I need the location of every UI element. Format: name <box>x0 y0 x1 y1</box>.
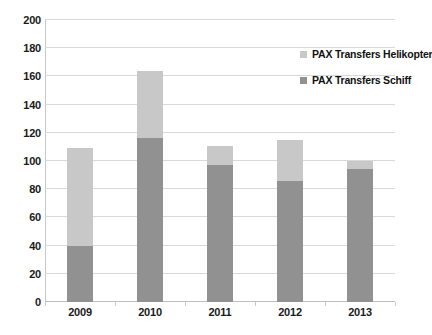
x-tick-label-2013: 2013 <box>330 306 390 318</box>
bar-segment[interactable] <box>137 71 163 139</box>
legend-item[interactable]: PAX Transfers Schiff <box>300 74 432 86</box>
x-axis-tick-labels: 20092010201120122013 <box>45 306 395 330</box>
plot-area: PAX Transfers HelikopterPAX Transfers Sc… <box>45 20 395 302</box>
legend-swatch-icon <box>300 77 307 84</box>
legend: PAX Transfers HelikopterPAX Transfers Sc… <box>300 48 432 100</box>
bar-segment[interactable] <box>67 246 93 302</box>
y-tick-label: 140 <box>5 99 41 111</box>
gridline <box>45 104 395 105</box>
x-tick-label-2010: 2010 <box>120 306 180 318</box>
y-tick-label: 160 <box>5 70 41 82</box>
x-tick-mark <box>45 302 46 306</box>
x-tick-mark <box>185 302 186 306</box>
legend-item[interactable]: PAX Transfers Helikopter <box>300 48 432 60</box>
bar-stack <box>207 146 233 303</box>
y-tick-label: 180 <box>5 42 41 54</box>
y-tick-label: 20 <box>5 268 41 280</box>
y-axis-tick-labels: 020406080100120140160180200 <box>0 20 41 302</box>
bar-segment[interactable] <box>207 146 233 166</box>
x-tick-mark <box>325 302 326 306</box>
x-tick-label-2009: 2009 <box>50 306 110 318</box>
y-tick-label: 120 <box>5 127 41 139</box>
bar-stack <box>137 71 163 302</box>
gridline <box>45 19 395 20</box>
x-tick-mark <box>115 302 116 306</box>
bar-segment[interactable] <box>67 148 93 245</box>
y-tick-label: 200 <box>5 14 41 26</box>
y-tick-label: 60 <box>5 211 41 223</box>
bar-segment[interactable] <box>277 181 303 302</box>
bar-segment[interactable] <box>137 138 163 302</box>
bar-segment[interactable] <box>277 140 303 181</box>
x-tick-label-2011: 2011 <box>190 306 250 318</box>
x-tick-label-2012: 2012 <box>260 306 320 318</box>
bar-stack <box>277 140 303 302</box>
y-tick-label: 0 <box>5 296 41 308</box>
legend-swatch-icon <box>300 51 307 58</box>
bar-stack <box>347 161 373 302</box>
y-tick-label: 40 <box>5 240 41 252</box>
bar-segment[interactable] <box>207 165 233 302</box>
y-tick-label: 100 <box>5 155 41 167</box>
gridline <box>45 132 395 133</box>
x-tick-mark <box>255 302 256 306</box>
y-tick-label: 80 <box>5 183 41 195</box>
bar-segment[interactable] <box>347 169 373 302</box>
legend-label: PAX Transfers Helikopter <box>312 48 432 60</box>
x-tick-mark <box>395 302 396 306</box>
bar-stack <box>67 148 93 302</box>
bar-segment[interactable] <box>347 161 373 169</box>
legend-label: PAX Transfers Schiff <box>312 74 411 86</box>
